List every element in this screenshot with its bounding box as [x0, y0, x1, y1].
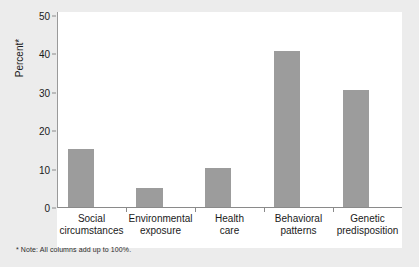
bar-4	[343, 90, 369, 207]
bar-slot	[264, 12, 333, 207]
y-tick-label-0: 0	[24, 203, 50, 214]
x-category-2: Healthcare	[195, 208, 264, 248]
y-tick-mark-30	[52, 92, 56, 93]
x-tick-mark-1	[126, 208, 127, 212]
chart-footnote: * Note: All columns add up to 100%.	[16, 246, 131, 253]
x-category-3: Behavioralpatterns	[264, 208, 333, 248]
x-category-0: Socialcircumstances	[57, 208, 126, 248]
x-tick-mark-4	[333, 208, 334, 212]
bar-chart-figure: Percent* 01020304050 Socialcircumstances…	[0, 0, 419, 267]
y-tick-label-20: 20	[24, 126, 50, 137]
bar-0	[68, 149, 94, 208]
x-category-label-0: Socialcircumstances	[57, 213, 126, 237]
bar-2	[205, 168, 231, 207]
bar-slot	[58, 12, 127, 207]
x-tick-mark-3	[264, 208, 265, 212]
y-tick-label-50: 50	[24, 11, 50, 22]
plot-area-frame	[57, 12, 402, 208]
x-category-label-3: Behavioralpatterns	[264, 213, 333, 237]
y-tick-mark-0	[52, 208, 56, 209]
bar-1	[136, 188, 162, 208]
y-tick-label-10: 10	[24, 164, 50, 175]
y-tick-mark-40	[52, 54, 56, 55]
bar-3	[274, 51, 300, 207]
x-category-1: Environmentalexposure	[126, 208, 195, 248]
x-tick-mark-2	[195, 208, 196, 212]
x-category-label-4: Geneticpredisposition	[333, 213, 402, 237]
y-tick-label-40: 40	[24, 49, 50, 60]
x-category-label-2: Healthcare	[195, 213, 264, 237]
y-tick-mark-10	[52, 169, 56, 170]
y-tick-mark-50	[52, 16, 56, 17]
x-axis-label-band: SocialcircumstancesEnvironmentalexposure…	[57, 208, 402, 248]
bar-slot	[196, 12, 265, 207]
bars-container	[58, 12, 402, 207]
bar-slot	[333, 12, 402, 207]
bar-slot	[127, 12, 196, 207]
y-tick-label-30: 30	[24, 87, 50, 98]
y-axis-tick-labels: 01020304050	[24, 14, 50, 208]
x-category-4: Geneticpredisposition	[333, 208, 402, 248]
x-category-label-1: Environmentalexposure	[126, 213, 195, 237]
y-tick-mark-20	[52, 131, 56, 132]
